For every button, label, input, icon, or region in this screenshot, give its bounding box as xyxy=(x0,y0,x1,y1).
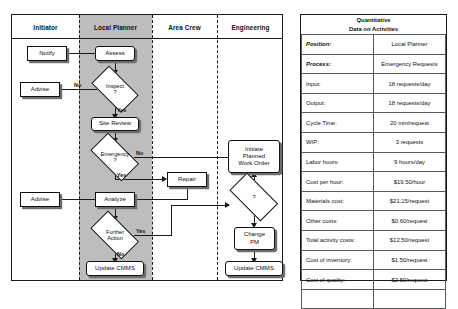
decision-further-line2: Action xyxy=(107,235,123,241)
cell-value-process: Emergency Requests xyxy=(374,54,446,74)
lane-divider-2 xyxy=(152,15,153,280)
cell-key-materials-cost: Materials cost: xyxy=(302,191,374,211)
cell-value-output: 18 requests/day xyxy=(374,93,446,113)
table-row: Materials cost: $21.15/request xyxy=(302,191,446,211)
node-update-cmms-planner[interactable]: Update CMMS xyxy=(86,261,144,276)
decision-inspect[interactable]: Inspect ? xyxy=(87,73,143,105)
activity-data-table: Quantitative Data on Activities Position… xyxy=(301,15,446,309)
table-row: Total activity costs: $12.50/request xyxy=(302,231,446,251)
cell-key-other-costs: Other costs: xyxy=(302,211,374,231)
decision-emergency-label: Emergency ? xyxy=(85,141,145,173)
cell-key-cycle-time: Cycle Time: xyxy=(302,113,374,133)
node-change-pm[interactable]: Change PM xyxy=(234,227,275,250)
cell-key-cost-per-hour: Cost per hour: xyxy=(302,172,374,192)
cell-filler-key xyxy=(302,289,374,309)
edge-label-emergency-yes: Yes xyxy=(117,172,126,178)
lane-header-local-planner: Local Planner xyxy=(79,21,152,34)
table-row: Cycle Time: 20 min/request xyxy=(302,113,446,133)
node-change-pm-line2: PM xyxy=(250,239,259,245)
cell-key-labor-hours: Labor hours: xyxy=(302,152,374,172)
edge-further-yes-up xyxy=(171,205,172,236)
cell-key-total-activity-costs: Total activity costs: xyxy=(302,231,374,251)
cell-key-process: Process: xyxy=(302,54,374,74)
lane-header-initiator: Initiator xyxy=(12,21,79,34)
node-update-cmms-engineering[interactable]: Update CMMS xyxy=(225,261,283,276)
table-row-position: Position: Local Planner xyxy=(302,35,446,55)
cell-value-wip: 3 requests xyxy=(374,133,446,153)
table-row: Input: 18 requests/day xyxy=(302,74,446,94)
decision-emergency[interactable]: Emergency ? xyxy=(85,141,145,173)
table-row: Labor hours: 9 hours/day xyxy=(302,152,446,172)
edge-label-further-yes: Yes xyxy=(136,228,145,234)
table-title-line2: Data on Activities xyxy=(349,26,398,32)
node-repair[interactable]: Repair xyxy=(167,172,207,187)
table-title-row: Quantitative Data on Activities xyxy=(302,15,446,35)
decision-inspect-line2: ? xyxy=(113,89,116,95)
lane-header-area-crew: Area Crew xyxy=(152,21,217,34)
edge-label-emergency-no: No xyxy=(136,150,143,156)
cell-value-cost-per-hour: $19.50/hour xyxy=(374,172,446,192)
decision-further-line1: Further xyxy=(106,229,124,235)
cell-key-cost-of-inventory: Cost of inventory: xyxy=(302,250,374,270)
edge-further-yes-to-decision xyxy=(171,205,229,206)
cell-key-input: Input: xyxy=(302,74,374,94)
cell-value-labor-hours: 9 hours/day xyxy=(374,152,446,172)
table-title: Quantitative Data on Activities xyxy=(302,15,446,35)
node-initiate-line3: Work Order xyxy=(238,160,269,166)
cell-value-cost-of-quality: $2.50/request xyxy=(374,270,446,290)
node-change-pm-lines: Change PM xyxy=(244,231,265,245)
edge-analyze-advise xyxy=(60,199,97,200)
edge-repair-analyze xyxy=(134,199,188,200)
quantitative-data-table: Quantitative Data on Activities Position… xyxy=(300,14,447,281)
edge-label-inspect-yes: Yes xyxy=(117,107,126,113)
cell-value-input: 18 requests/day xyxy=(374,74,446,94)
table-row: Cost of inventory: $1.50/request xyxy=(302,250,446,270)
table-title-line1: Quantitative xyxy=(356,17,390,23)
decision-inspect-label: Inspect ? xyxy=(87,73,143,105)
lane-divider-3 xyxy=(217,15,218,280)
node-site-review[interactable]: Site Review xyxy=(91,117,139,131)
cell-key-wip: WIP: xyxy=(302,133,374,153)
node-notify[interactable]: Notify xyxy=(27,46,67,61)
decision-inspect-line1: Inspect xyxy=(106,83,124,89)
table-row-process: Process: Emergency Requests xyxy=(302,54,446,74)
node-initiate-line1: Initiate xyxy=(245,146,263,152)
cell-value-position: Local Planner xyxy=(374,35,446,55)
table-filler-row xyxy=(302,289,446,309)
table-row: Cost per hour: $19.50/hour xyxy=(302,172,446,192)
swimlane-flowchart: Initiator Local Planner Area Crew Engine… xyxy=(11,14,283,281)
node-analyze[interactable]: Analyze xyxy=(95,192,135,207)
cell-value-total-activity-costs: $12.50/request xyxy=(374,231,446,251)
cell-key-cost-of-quality: Cost of quality: xyxy=(302,270,374,290)
cell-value-materials-cost: $21.15/request xyxy=(374,191,446,211)
node-initiate-line2: Planned xyxy=(243,153,265,159)
table-row: Cost of quality: $2.50/request xyxy=(302,270,446,290)
lane-divider-1 xyxy=(79,15,80,280)
node-assess[interactable]: Assess xyxy=(95,46,135,61)
table-row: Other costs: $0.60/request xyxy=(302,211,446,231)
node-initiate-planned-work-order[interactable]: Initiate Planned Work Order xyxy=(228,140,280,173)
cell-key-position: Position: xyxy=(302,35,374,55)
cell-value-cycle-time: 20 min/request xyxy=(374,113,446,133)
decision-engineering[interactable]: ? xyxy=(224,181,284,213)
edge-emergency-no-initiate xyxy=(134,157,240,158)
decision-further-action-label: Further Action xyxy=(85,219,145,251)
node-advise-mid[interactable]: Advise xyxy=(20,192,60,207)
edge-label-further-no: No xyxy=(117,251,124,257)
cell-value-cost-of-inventory: $1.50/request xyxy=(374,250,446,270)
decision-further-action[interactable]: Further Action xyxy=(85,219,145,251)
decision-emergency-line1: Emergency xyxy=(101,151,129,157)
lane-header-engineering: Engineering xyxy=(217,21,284,34)
node-change-pm-line1: Change xyxy=(244,231,265,237)
table-row: WIP: 3 requests xyxy=(302,133,446,153)
cell-key-output: Output: xyxy=(302,93,374,113)
decision-emergency-line2: ? xyxy=(113,157,116,163)
cell-filler-value xyxy=(374,289,446,309)
node-initiate-lines: Initiate Planned Work Order xyxy=(238,146,269,168)
lane-header-rule xyxy=(12,38,282,39)
table-row: Output: 18 requests/day xyxy=(302,93,446,113)
cell-value-other-costs: $0.60/request xyxy=(374,211,446,231)
node-advise-top[interactable]: Advise xyxy=(20,82,60,97)
decision-engineering-label: ? xyxy=(224,181,284,213)
